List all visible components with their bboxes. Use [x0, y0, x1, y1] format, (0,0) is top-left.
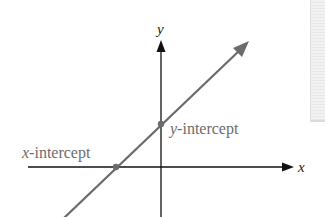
x-intercept-text: -intercept: [29, 144, 91, 162]
x-intercept-label: x-intercept: [21, 144, 91, 162]
x-axis-arrow-icon: [282, 163, 294, 172]
y-intercept-point: [158, 121, 164, 127]
y-axis-label: y: [155, 21, 164, 37]
x-intercept-point: [113, 164, 119, 170]
y-intercept-text: -intercept: [177, 120, 239, 138]
y-intercept-label: y-intercept: [168, 120, 239, 138]
x-axis-label: x: [297, 159, 305, 175]
side-panel-edge: [310, 0, 325, 122]
x-intercept-var: x: [21, 144, 29, 161]
y-axis-arrow-icon: [157, 40, 166, 52]
